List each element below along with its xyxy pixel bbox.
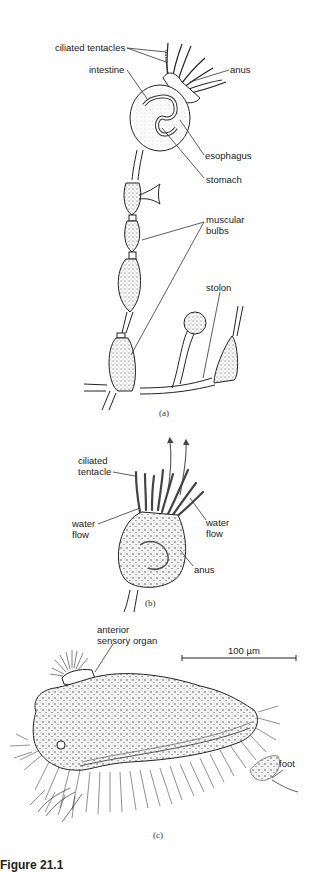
label-foot: foot: [279, 758, 295, 769]
label-ciliated-tentacles: ciliated tentacles: [55, 42, 125, 53]
label-anterior-sensory-organ: anterior sensory organ: [97, 624, 157, 646]
label-esophagus: esophagus: [205, 150, 251, 161]
label-ciliated-tentacle-line1: ciliated: [78, 455, 111, 466]
label-water-flow-left-line1: water: [72, 518, 95, 529]
label-muscular-bulbs-line1: muscular: [206, 214, 245, 225]
label-anus-b: anus: [194, 564, 215, 575]
label-water-flow-right-line1: water: [206, 517, 229, 528]
panel-label-c: (c): [153, 830, 163, 840]
label-water-flow-left-line2: flow: [72, 529, 95, 540]
label-water-flow-right-line2: flow: [206, 528, 229, 539]
panel-label-b: (b): [145, 598, 156, 608]
label-stomach: stomach: [206, 174, 242, 185]
scale-bar-label: 100 µm: [228, 645, 260, 656]
label-intestine: intestine: [89, 64, 124, 75]
label-anterior-sensory-organ-line2: sensory organ: [97, 635, 157, 646]
panel-c-drawing: [10, 644, 298, 822]
label-anterior-sensory-organ-line1: anterior: [97, 624, 157, 635]
label-muscular-bulbs: muscular bulbs: [206, 214, 245, 236]
panel-label-a: (a): [159, 408, 169, 418]
label-ciliated-tentacle: ciliated tentacle: [78, 455, 111, 477]
panel-b-drawing: [98, 440, 206, 612]
label-anus-a: anus: [230, 64, 251, 75]
figure-caption: Figure 21.1: [0, 858, 63, 872]
label-muscular-bulbs-line2: bulbs: [206, 225, 245, 236]
label-water-flow-left: water flow: [72, 518, 95, 540]
label-ciliated-tentacle-line2: tentacle: [78, 466, 111, 477]
label-stolon: stolon: [206, 282, 231, 293]
label-water-flow-right: water flow: [206, 517, 229, 539]
